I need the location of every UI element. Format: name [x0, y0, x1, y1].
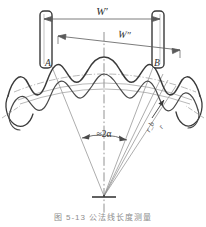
figure-caption: 图 5-13 公法线长度测量 — [0, 211, 206, 227]
helix-direction-arrow — [152, 100, 164, 118]
radius-line-r-b — [104, 74, 163, 196]
dimension-label-span-outer: W′ — [96, 5, 108, 17]
tooth-wave-rear-right — [104, 74, 198, 111]
label-contact-point-left: A — [44, 58, 51, 68]
helix-wrap-right-inner — [188, 110, 199, 128]
label-contact-point-right: B — [154, 58, 160, 68]
radius-lines-group — [50, 62, 176, 196]
tooth-crest-wave-front — [8, 57, 200, 96]
helical-gear-span-measurement-figure: W′ W″ A B ≈2α r_b r — [0, 0, 206, 227]
label-radius-base: r_b — [143, 120, 156, 134]
dimension-span-outer — [44, 16, 160, 21]
radius-line-r-outer — [104, 86, 176, 196]
angle-label: ≈2α — [97, 129, 112, 139]
arrow-left-inner — [58, 34, 66, 39]
angle-arrow-left — [82, 134, 90, 140]
reference-circle-arcs — [14, 74, 196, 104]
gear-axis-apex — [92, 195, 116, 197]
dimension-label-span-inner: W″ — [118, 28, 132, 40]
label-radius-outer: r — [156, 123, 165, 130]
arrow-right-inner — [172, 48, 180, 53]
